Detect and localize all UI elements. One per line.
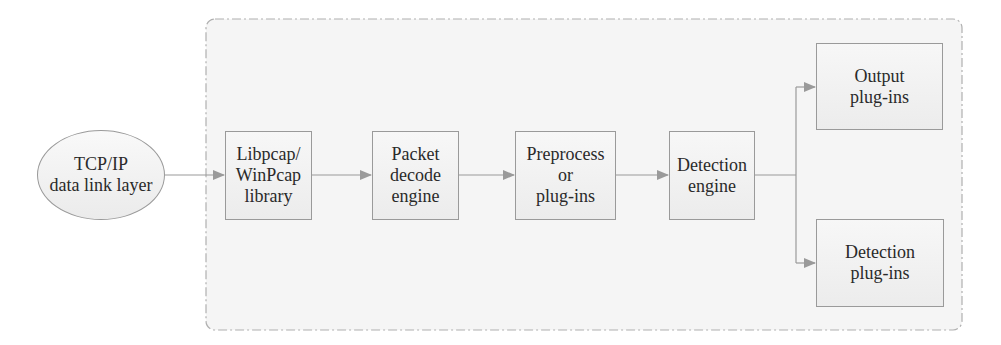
preprocess-plugins-node: Preprocess or plug-ins: [515, 131, 616, 220]
output-plugins-node: Output plug-ins: [816, 43, 943, 130]
node-label-line: library: [245, 186, 293, 207]
node-label-line: plug-ins: [850, 87, 909, 108]
node-label-line: Libpcap/: [237, 144, 301, 165]
node-label-line: engine: [392, 186, 440, 207]
node-label-line: plug-ins: [536, 186, 595, 207]
node-label-line: decode: [390, 165, 441, 186]
node-label-line: TCP/IP: [74, 154, 128, 175]
packet-decode-engine-node: Packet decode engine: [372, 131, 459, 220]
node-label-line: plug-ins: [850, 263, 909, 284]
node-label-line: engine: [688, 176, 736, 197]
node-label-line: Detection: [845, 242, 915, 263]
tcpip-data-link-layer-node: TCP/IP data link layer: [37, 130, 165, 220]
node-label-line: WinPcap: [236, 165, 301, 186]
node-label-line: Preprocess: [527, 144, 605, 165]
node-label-line: or: [558, 165, 573, 186]
node-label-line: Packet: [392, 144, 440, 165]
detection-engine-node: Detection engine: [669, 131, 755, 220]
node-label-line: data link layer: [50, 175, 153, 196]
libpcap-winpcap-library-node: Libpcap/ WinPcap library: [225, 131, 312, 220]
detection-plugins-node: Detection plug-ins: [816, 219, 944, 307]
node-label-line: Detection: [677, 155, 747, 176]
node-label-line: Output: [854, 66, 904, 87]
snort-architecture-diagram: TCP/IP data link layer Libpcap/ WinPcap …: [0, 0, 1001, 345]
